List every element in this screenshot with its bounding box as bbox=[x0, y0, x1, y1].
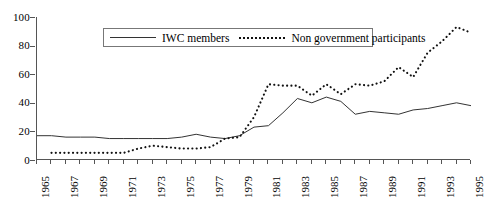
x-tick bbox=[239, 160, 240, 164]
y-tick bbox=[30, 17, 35, 18]
chart-legend: IWC members Non government participants bbox=[103, 28, 373, 47]
x-tick-label: 1993 bbox=[445, 176, 456, 198]
x-tick bbox=[296, 160, 297, 164]
x-tick-label: 1973 bbox=[156, 176, 167, 198]
y-tick-label: 40 bbox=[0, 97, 30, 108]
y-tick-label: 20 bbox=[0, 126, 30, 137]
x-tick bbox=[224, 160, 225, 164]
y-tick bbox=[30, 160, 35, 161]
x-tick bbox=[470, 160, 471, 164]
x-tick bbox=[65, 160, 66, 164]
x-tick bbox=[267, 160, 268, 164]
x-tick-label: 1971 bbox=[127, 176, 138, 198]
x-axis-labels: 1965196719691971197319751977197919811983… bbox=[36, 166, 470, 208]
y-tick-label: 60 bbox=[0, 69, 30, 80]
x-tick-label: 1965 bbox=[40, 176, 51, 198]
x-tick bbox=[152, 160, 153, 164]
x-tick bbox=[441, 160, 442, 164]
y-tick-label: 100 bbox=[0, 12, 30, 23]
x-tick-label: 1975 bbox=[185, 176, 196, 198]
x-tick bbox=[354, 160, 355, 164]
x-tick bbox=[325, 160, 326, 164]
x-tick-label: 1987 bbox=[358, 176, 369, 198]
x-tick bbox=[166, 160, 167, 164]
x-tick-label: 1967 bbox=[69, 176, 80, 198]
x-tick bbox=[108, 160, 109, 164]
x-tick bbox=[456, 160, 457, 164]
x-tick bbox=[412, 160, 413, 164]
x-tick bbox=[181, 160, 182, 164]
x-tick bbox=[195, 160, 196, 164]
x-tick bbox=[398, 160, 399, 164]
x-tick bbox=[340, 160, 341, 164]
x-tick-label: 1977 bbox=[214, 176, 225, 198]
x-tick-label: 1991 bbox=[416, 176, 427, 198]
x-tick bbox=[282, 160, 283, 164]
x-tick bbox=[137, 160, 138, 164]
x-tick bbox=[210, 160, 211, 164]
chart-title-cropped bbox=[0, 0, 482, 8]
legend-swatch-dotted bbox=[239, 37, 285, 39]
y-tick-label: 80 bbox=[0, 40, 30, 51]
x-tick-label: 1981 bbox=[271, 176, 282, 198]
x-tick bbox=[36, 160, 37, 164]
x-tick-label: 1983 bbox=[300, 176, 311, 198]
x-tick bbox=[369, 160, 370, 164]
y-tick-label: 0 bbox=[0, 155, 30, 166]
x-tick bbox=[50, 160, 51, 164]
y-tick bbox=[30, 74, 35, 75]
legend-label-non-government-participants: Non government participants bbox=[291, 32, 425, 44]
legend-label-iwc-members: IWC members bbox=[162, 32, 229, 44]
x-tick bbox=[311, 160, 312, 164]
x-tick bbox=[253, 160, 254, 164]
x-tick-label: 1979 bbox=[243, 176, 254, 198]
x-tick bbox=[427, 160, 428, 164]
x-tick-label: 1969 bbox=[98, 176, 109, 198]
x-tick-label: 1995 bbox=[474, 176, 485, 198]
x-tick bbox=[94, 160, 95, 164]
x-tick-label: 1985 bbox=[329, 176, 340, 198]
x-tick-label: 1989 bbox=[387, 176, 398, 198]
y-tick bbox=[30, 46, 35, 47]
x-tick bbox=[79, 160, 80, 164]
legend-swatch-solid bbox=[110, 37, 156, 38]
y-tick bbox=[30, 131, 35, 132]
x-tick bbox=[123, 160, 124, 164]
x-axis-ticks bbox=[36, 160, 470, 165]
y-tick bbox=[30, 103, 35, 104]
x-tick bbox=[383, 160, 384, 164]
